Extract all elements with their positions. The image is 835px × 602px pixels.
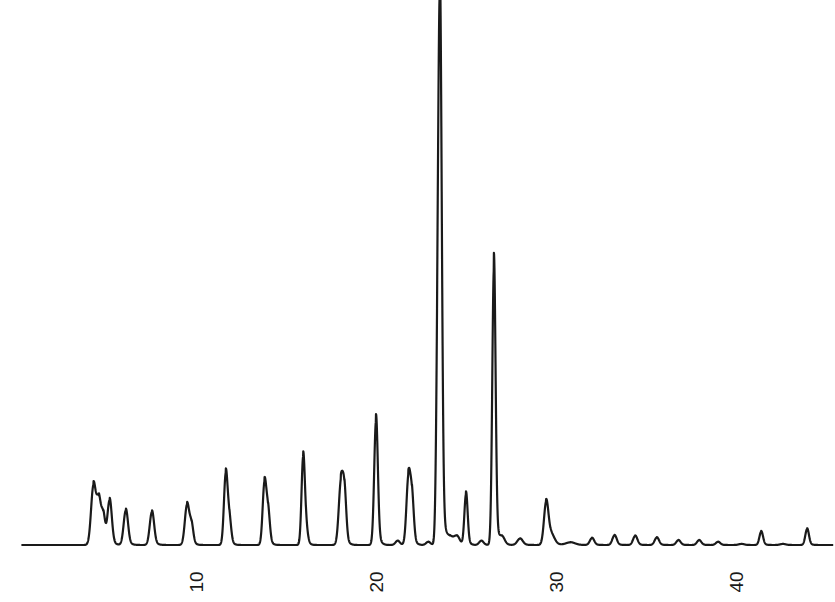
x-tick-label-30: 30	[546, 571, 567, 592]
x-tick-label-20: 20	[366, 571, 387, 592]
chromatogram-trace	[21, 0, 833, 545]
x-axis-tick-labels: 10203040	[186, 571, 747, 592]
x-tick-label-10: 10	[186, 571, 207, 592]
x-tick-label-40: 40	[726, 571, 747, 592]
chromatogram-chart: 10203040	[0, 0, 835, 602]
